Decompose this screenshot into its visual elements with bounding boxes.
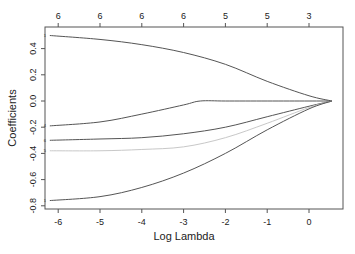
y-tick-label: -0.8 xyxy=(28,198,38,214)
x-tick-label: -6 xyxy=(54,217,62,227)
top-tick-label: 6 xyxy=(56,11,61,21)
top-tick-label: 5 xyxy=(223,11,228,21)
x-tick-label: 0 xyxy=(306,217,311,227)
plot-box xyxy=(45,27,343,209)
y-tick-label: -0.4 xyxy=(28,146,38,162)
coefficient-curves xyxy=(50,36,332,201)
coefficient-path-chart: -6-5-4-3-2-10 -0.8-0.6-0.4-0.20.00.20.4 … xyxy=(0,0,355,254)
top-tick-label: 5 xyxy=(265,11,270,21)
x-axis: -6-5-4-3-2-10 xyxy=(54,209,311,227)
top-tick-label: 6 xyxy=(97,11,102,21)
y-tick-label: 0.2 xyxy=(28,69,38,82)
y-tick-label: 0.4 xyxy=(28,42,38,55)
y-tick-label: 0.0 xyxy=(28,95,38,108)
curve-label: 4 xyxy=(44,123,47,128)
x-tick-label: -5 xyxy=(96,217,104,227)
curve-label: 5 xyxy=(44,148,47,153)
y-axis-title: Coefficients xyxy=(6,89,18,147)
coefficient-curve xyxy=(50,36,332,102)
x-tick-label: -1 xyxy=(263,217,271,227)
top-tick-label: 6 xyxy=(181,11,186,21)
y-tick-label: -0.2 xyxy=(28,119,38,135)
coefficient-curve xyxy=(50,101,332,126)
x-tick-label: -2 xyxy=(221,217,229,227)
curve-label: 1 xyxy=(44,198,47,203)
coefficient-curve xyxy=(50,101,332,140)
x-tick-label: -3 xyxy=(180,217,188,227)
y-tick-label: -0.6 xyxy=(28,172,38,188)
top-tick-label: 3 xyxy=(306,11,311,21)
y-axis: -0.8-0.6-0.4-0.20.00.20.4 xyxy=(28,42,45,213)
top-axis-nonzero-counts: 6666553 xyxy=(56,11,312,27)
x-tick-label: -4 xyxy=(138,217,146,227)
curve-label: 1 xyxy=(44,33,47,38)
x-axis-title: Log Lambda xyxy=(153,230,215,242)
top-tick-label: 6 xyxy=(139,11,144,21)
curve-label: 6 xyxy=(44,138,47,143)
coefficient-curve xyxy=(50,101,332,151)
